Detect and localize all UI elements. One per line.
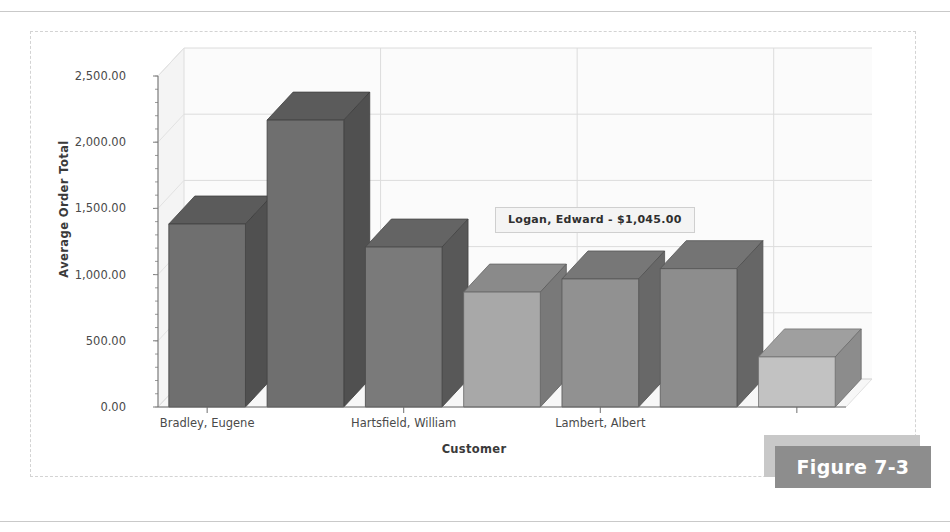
- y-axis-tick-label: 1,000.00: [40, 268, 126, 282]
- bar-chart-graphic: [31, 32, 917, 478]
- x-axis-tick-label: Lambert, Albert: [555, 416, 645, 430]
- y-axis-tick-label: 2,500.00: [40, 69, 126, 83]
- y-axis-tick-label: 2,000.00: [40, 135, 126, 149]
- page-rule-top: [0, 11, 950, 12]
- y-axis-tick-label: 1,500.00: [40, 201, 126, 215]
- chart-container: 0.00500.001,000.001,500.002,000.002,500.…: [30, 31, 916, 477]
- plot-area: 0.00500.001,000.001,500.002,000.002,500.…: [31, 32, 917, 478]
- page-rule-bottom: [0, 521, 950, 522]
- y-axis-title: Average Order Total: [57, 114, 71, 304]
- y-axis-tick-label: 0.00: [40, 400, 126, 414]
- y-axis-ticks: 0.00500.001,000.001,500.002,000.002,500.…: [40, 32, 126, 478]
- figure-tag: Figure 7-3: [775, 446, 931, 488]
- y-axis-tick-label: 500.00: [40, 334, 126, 348]
- data-point-tooltip: Logan, Edward - $1,045.00: [495, 207, 695, 233]
- x-axis-tick-label: Bradley, Eugene: [160, 416, 255, 430]
- x-axis-tick-label: Hartsfield, William: [351, 416, 456, 430]
